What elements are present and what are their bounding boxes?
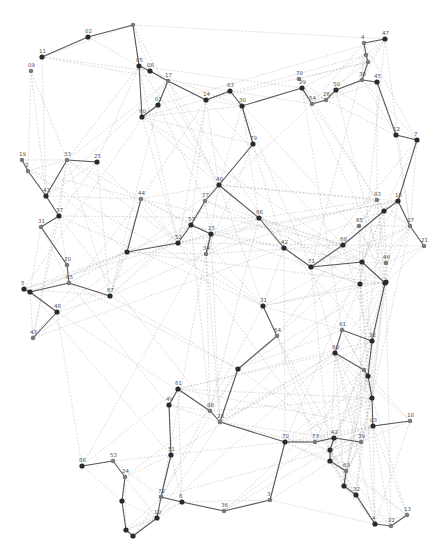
graph-node[interactable] [256,215,261,220]
graph-node[interactable] [235,366,240,371]
graph-node[interactable] [21,286,26,291]
graph-node[interactable] [341,483,346,488]
graph-node[interactable] [359,259,364,264]
graph-node[interactable] [155,102,160,107]
graph-node[interactable] [375,198,380,203]
graph-node[interactable] [154,515,159,520]
graph-node[interactable] [39,225,44,230]
graph-node[interactable] [324,98,329,103]
graph-node[interactable] [359,440,364,445]
graph-node[interactable] [370,423,375,428]
graph-node[interactable] [313,440,318,445]
graph-node[interactable] [130,533,135,538]
graph-node[interactable] [382,280,387,285]
graph-node[interactable] [340,328,345,333]
graph-node[interactable] [357,224,362,229]
graph-node[interactable] [395,198,400,203]
graph-node[interactable] [357,281,362,286]
graph-node[interactable] [393,132,398,137]
graph-node[interactable] [111,459,116,464]
graph-node[interactable] [166,79,171,84]
graph-node[interactable] [119,498,124,503]
graph-node[interactable] [203,199,208,204]
graph-node[interactable] [139,197,144,202]
graph-node[interactable] [250,141,255,146]
graph-node[interactable] [389,524,394,529]
graph-node[interactable] [29,69,34,74]
graph-node[interactable] [107,293,112,298]
graph-node[interactable] [227,88,232,93]
graph-node[interactable] [204,252,209,257]
graph-node[interactable] [94,159,99,164]
graph-node[interactable] [67,281,72,286]
graph-node[interactable] [365,373,370,378]
graph-node[interactable] [222,509,227,514]
graph-node[interactable] [56,213,61,218]
graph-node[interactable] [159,495,164,500]
graph-node[interactable] [299,85,304,90]
graph-node[interactable] [65,158,70,163]
graph-node[interactable] [188,222,193,227]
graph-node[interactable] [362,41,367,46]
graph-node[interactable] [364,53,369,58]
graph-node[interactable] [372,521,377,526]
graph-node[interactable] [43,193,48,198]
graph-node[interactable] [179,499,184,504]
graph-node[interactable] [408,419,413,424]
graph-node[interactable] [168,452,173,457]
graph-node[interactable] [308,264,313,269]
graph-node[interactable] [362,368,367,373]
graph-node[interactable] [408,224,413,229]
graph-node[interactable] [353,492,358,497]
graph-node[interactable] [327,447,332,452]
graph-node[interactable] [208,409,213,414]
graph-node[interactable] [332,350,337,355]
graph-node[interactable] [79,463,84,468]
graph-node[interactable] [384,261,389,266]
graph-node[interactable] [310,102,315,107]
graph-node[interactable] [260,303,265,308]
graph-node[interactable] [123,475,128,480]
graph-node[interactable] [31,336,36,341]
graph-node[interactable] [54,309,59,314]
graph-node[interactable] [382,36,387,41]
graph-node[interactable] [366,60,371,65]
graph-node[interactable] [139,114,144,119]
graph-node[interactable] [26,169,31,174]
graph-node[interactable] [203,97,208,102]
graph-node[interactable] [239,103,244,108]
graph-node[interactable] [333,87,338,92]
graph-node[interactable] [340,242,345,247]
graph-node[interactable] [405,513,410,518]
graph-node[interactable] [268,498,273,503]
graph-node[interactable] [20,158,25,163]
graph-node[interactable] [216,182,221,187]
graph-node[interactable] [147,68,152,73]
graph-node[interactable] [136,63,141,68]
graph-node[interactable] [166,402,171,407]
graph-node[interactable] [369,338,374,343]
graph-node[interactable] [208,231,213,236]
graph-node[interactable] [218,420,223,425]
graph-node[interactable] [281,245,286,250]
graph-node[interactable] [175,240,180,245]
graph-node[interactable] [65,263,70,268]
graph-node[interactable] [327,458,332,463]
graph-node[interactable] [344,469,349,474]
graph-node[interactable] [27,289,32,294]
graph-node[interactable] [369,395,374,400]
graph-node[interactable] [360,78,365,83]
graph-node[interactable] [124,249,129,254]
graph-node[interactable] [175,386,180,391]
graph-node[interactable] [275,334,280,339]
graph-node[interactable] [282,439,287,444]
graph-node[interactable] [39,54,44,59]
graph-node[interactable] [374,79,379,84]
graph-node[interactable] [414,137,419,142]
graph-node[interactable] [131,23,136,28]
graph-node[interactable] [123,527,128,532]
graph-node[interactable] [381,208,386,213]
graph-node[interactable] [422,244,427,249]
graph-node[interactable] [331,435,336,440]
graph-node[interactable] [85,34,90,39]
